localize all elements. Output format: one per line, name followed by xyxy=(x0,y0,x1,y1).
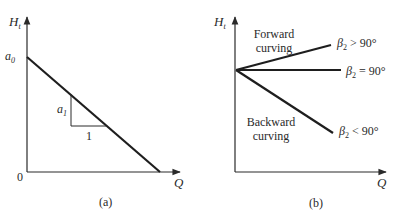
curve-label-radial: β2 = 90° xyxy=(345,64,386,80)
caption-b: (b) xyxy=(309,196,323,210)
backward-region-label-1: Backward xyxy=(247,115,296,129)
y-axis-label-b: Ht xyxy=(213,14,226,31)
forward-region-label-1: Forward xyxy=(254,27,295,41)
panel-b: Ht Forward curving Backward curving β2 >… xyxy=(213,14,387,210)
run-label: 1 xyxy=(86,129,92,143)
panel-a: Ht a0 a1 1 0 Q (a) xyxy=(5,14,184,209)
caption-a: (a) xyxy=(99,195,112,209)
origin-label: 0 xyxy=(17,170,23,184)
backward-region-label-2: curving xyxy=(253,129,290,143)
slope-label: a1 xyxy=(57,102,67,118)
x-axis-label-b: Q xyxy=(377,175,387,190)
x-axis-label-a: Q xyxy=(174,175,184,190)
curve-label-forward: β2 > 90° xyxy=(336,36,377,52)
y-axis-label-a: Ht xyxy=(8,14,21,31)
intercept-label: a0 xyxy=(5,49,15,65)
head-flow-line xyxy=(27,57,160,172)
forward-region-label-2: curving xyxy=(256,41,293,55)
diagram-canvas: Ht a0 a1 1 0 Q (a) Ht Forward curving Ba… xyxy=(0,0,395,220)
curve-label-backward: β2 < 90° xyxy=(338,124,379,140)
